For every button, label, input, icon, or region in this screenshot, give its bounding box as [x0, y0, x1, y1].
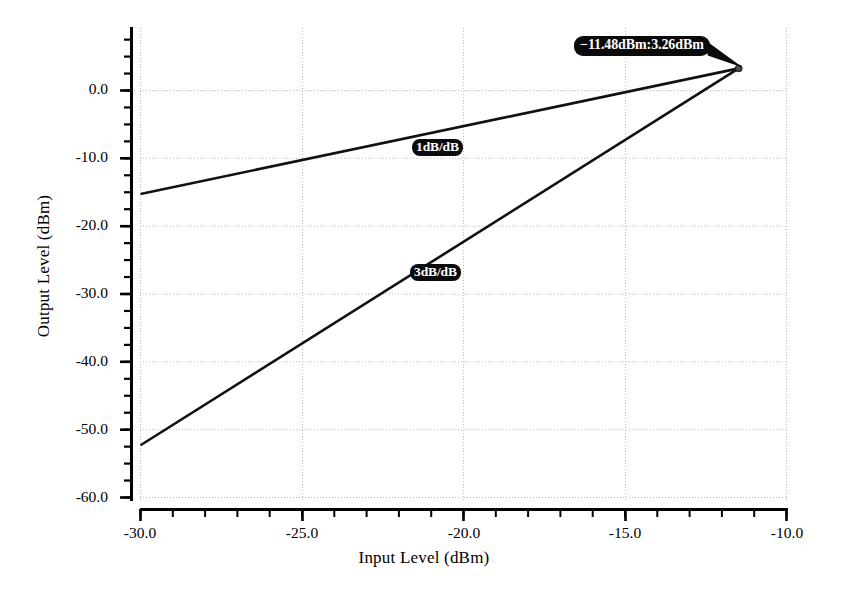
third-order-slope-label: 3dB/dB: [410, 264, 461, 281]
y-tick-label-3: -30.0: [28, 284, 108, 302]
x-tick-label-4: -10.0: [747, 524, 827, 542]
x-tick-label-3: -15.0: [585, 524, 665, 542]
intercept-point-chart: Input Level (dBm) Output Level (dBm) 0.0…: [0, 0, 848, 593]
plot-canvas: [0, 0, 848, 593]
intercept-label: −11.48dBm:3.26dBm: [574, 36, 710, 56]
x-tick-label-2: -20.0: [424, 524, 504, 542]
y-tick-label-2: -20.0: [28, 216, 108, 234]
y-tick-label-0: 0.0: [28, 80, 108, 98]
y-tick-label-4: -40.0: [28, 352, 108, 370]
x-axis-minor-ticks: [141, 509, 787, 517]
chart-background: [0, 0, 848, 593]
x-tick-label-1: -25.0: [262, 524, 342, 542]
y-tick-label-5: -50.0: [28, 420, 108, 438]
y-tick-label-1: -10.0: [28, 148, 108, 166]
x-tick-label-0: -30.0: [100, 524, 180, 542]
y-tick-label-6: -60.0: [28, 488, 108, 506]
fundamental-slope-label: 1dB/dB: [412, 139, 463, 156]
x-axis-title: Input Level (dBm): [0, 548, 848, 568]
